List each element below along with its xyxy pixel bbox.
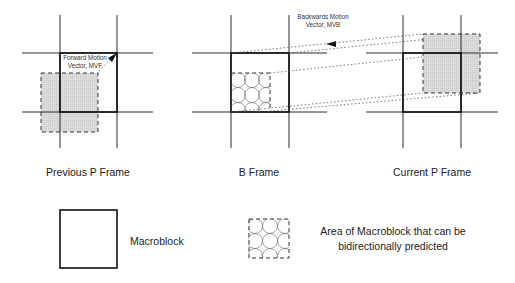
bidirectional-area-border — [231, 73, 270, 112]
legend-bidirectional-label-2: bidirectionally predicted — [338, 240, 448, 252]
legend-macroblock-swatch — [60, 210, 117, 268]
backward-vector-label-1: Backwards Motion — [297, 13, 349, 20]
bidirectional-area-pattern — [231, 73, 274, 118]
forward-vector-label-1: Forward Motion — [63, 54, 107, 61]
motion-vector-diagram: Forward Motion Vector, MVF Backwards Mot… — [0, 0, 515, 283]
backward-arrow-icon — [326, 41, 336, 47]
frame-label-current-p: Current P Frame — [393, 166, 471, 178]
macroblock — [231, 53, 289, 112]
legend: Macroblock Area of Macroblock that can b… — [60, 210, 466, 268]
legend-bidirectional-label-1: Area of Macroblock that can be — [320, 225, 465, 237]
current-p-frame — [366, 15, 498, 148]
legend-bidirectional-swatch — [249, 219, 289, 258]
legend-macroblock-label: Macroblock — [130, 235, 184, 247]
frame-label-previous-p: Previous P Frame — [46, 166, 130, 178]
b-frame: Backwards Motion Vector, MVB — [192, 13, 349, 148]
reference-area-shaded — [41, 73, 98, 132]
forward-vector-label-2: Vector, MVF — [68, 62, 102, 69]
forward-arrow-icon — [108, 53, 117, 62]
previous-p-frame: Forward Motion Vector, MVF — [22, 15, 153, 148]
reference-area-shaded — [423, 34, 480, 93]
backward-vector-label-2: Vector, MVB — [306, 21, 341, 28]
legend-bidirectional-swatch-pattern — [248, 219, 293, 264]
frame-label-b: B Frame — [239, 166, 279, 178]
